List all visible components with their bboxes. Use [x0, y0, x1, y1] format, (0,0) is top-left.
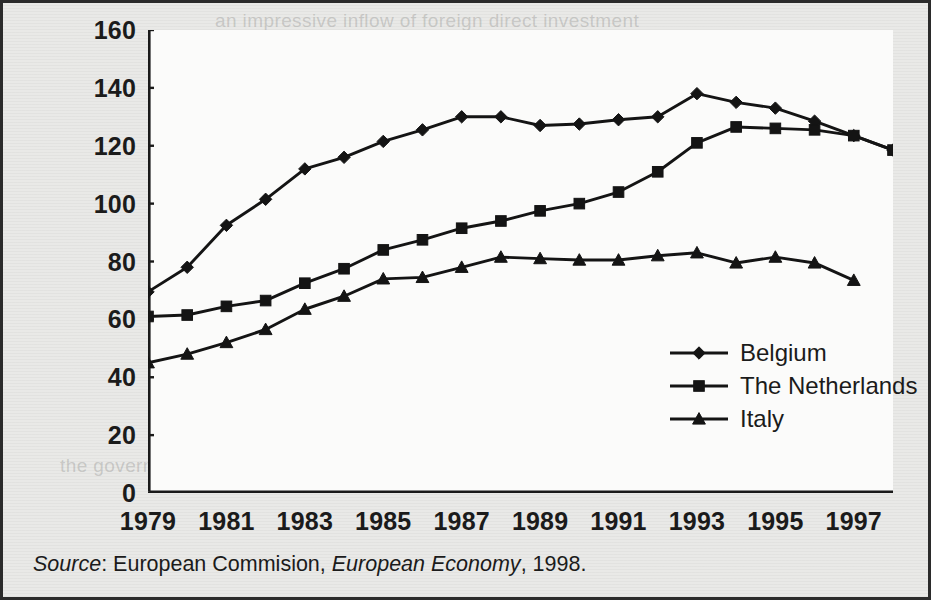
- legend-label: The Netherlands: [740, 374, 917, 398]
- legend-item-the-netherlands: The Netherlands: [668, 369, 917, 402]
- square-marker-icon: [668, 375, 730, 397]
- x-axis-tick-label: 1997: [809, 509, 899, 534]
- source-year: 1998: [533, 552, 581, 576]
- source-publication: European Economy: [332, 552, 521, 576]
- x-axis-tick-label: 1987: [417, 509, 507, 534]
- legend-item-italy: Italy: [668, 402, 917, 435]
- x-axis-tick-label: 1985: [338, 509, 428, 534]
- chart-figure: an impressive inflow of foreign direct i…: [0, 0, 931, 600]
- x-axis-labels: 1979198119831985198719891991199319951997: [0, 0, 931, 600]
- x-axis-tick-label: 1993: [652, 509, 742, 534]
- x-axis-tick-label: 1981: [181, 509, 271, 534]
- legend-label: Belgium: [740, 341, 827, 365]
- triangle-marker-icon: [668, 408, 730, 430]
- x-axis-tick-label: 1991: [574, 509, 664, 534]
- chart-legend: BelgiumThe NetherlandsItaly: [668, 336, 917, 435]
- legend-item-belgium: Belgium: [668, 336, 917, 369]
- legend-label: Italy: [740, 407, 784, 431]
- x-axis-tick-label: 1995: [730, 509, 820, 534]
- source-note: Source: European Commision, European Eco…: [33, 552, 586, 577]
- source-publisher: European Commision: [113, 552, 320, 576]
- x-axis-tick-label: 1979: [103, 509, 193, 534]
- diamond-marker-icon: [668, 342, 730, 364]
- source-label: Source: [33, 552, 101, 576]
- x-axis-tick-label: 1983: [260, 509, 350, 534]
- x-axis-tick-label: 1989: [495, 509, 585, 534]
